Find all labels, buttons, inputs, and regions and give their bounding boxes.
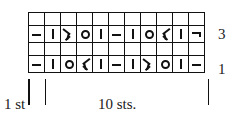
chart-cell [125, 56, 141, 73]
purl-stitch-icon [29, 26, 44, 42]
chart-cell [29, 43, 45, 56]
chart-cell [61, 26, 77, 43]
chart-cell [61, 56, 77, 73]
knit-stitch-icon [173, 26, 188, 42]
chart-cell [141, 13, 157, 26]
label-first-stitch: 1 st [4, 96, 25, 112]
row-number-lower: 1 [218, 62, 226, 77]
chart-cell [157, 26, 173, 43]
chart-cell [93, 26, 109, 43]
tick-mark-left [28, 79, 30, 105]
left-leaning-decrease-icon [141, 56, 156, 72]
chart-cell [45, 56, 61, 73]
chart-cell [141, 56, 157, 73]
chart-cell [125, 43, 141, 56]
chart-row-3 [29, 26, 205, 43]
chart-cell [77, 56, 93, 73]
knit-stitch-icon [125, 26, 140, 42]
chart-cell [157, 43, 173, 56]
knit-stitch-icon [93, 26, 108, 42]
stitch-chart-grid [28, 12, 205, 73]
chart-cell [141, 43, 157, 56]
purl-stitch-icon [189, 56, 204, 72]
knit-stitch-icon [45, 56, 60, 72]
chart-cell [61, 43, 77, 56]
chart-cell [189, 56, 205, 73]
chart-cell [29, 13, 45, 26]
label-repeat-stitches: 10 sts. [98, 96, 136, 112]
chart-cell [29, 26, 45, 43]
chart-cell [45, 43, 61, 56]
knit-stitch-icon [45, 26, 60, 42]
chart-cell [109, 13, 125, 26]
purl-stitch-icon [109, 26, 124, 42]
chart-cell [109, 43, 125, 56]
chart-cell [173, 26, 189, 43]
chart-cell [109, 56, 125, 73]
left-leaning-decrease-icon [61, 26, 76, 42]
stitch-chart-figure: 3 1 1 st 10 sts. [0, 0, 248, 122]
chart-cell [125, 26, 141, 43]
chart-cell [125, 13, 141, 26]
knit-stitch-icon [173, 56, 188, 72]
chart-cell [173, 13, 189, 26]
chart-cell [77, 13, 93, 26]
chart-cell [77, 26, 93, 43]
yarn-over-icon [61, 56, 76, 72]
chart-row-1 [29, 56, 205, 73]
yarn-over-icon [157, 56, 172, 72]
chart-cell [141, 26, 157, 43]
yarn-over-icon [141, 26, 156, 42]
chart-row-blank-top [29, 13, 205, 26]
chart-cell [61, 13, 77, 26]
purl-stitch-end-icon [189, 26, 204, 42]
chart-cell [157, 13, 173, 26]
right-leaning-decrease-icon [157, 26, 172, 42]
right-leaning-decrease-icon [77, 56, 92, 72]
knit-stitch-icon [93, 56, 108, 72]
chart-cell [109, 26, 125, 43]
chart-cell [45, 26, 61, 43]
row-number-upper: 3 [218, 27, 226, 42]
purl-stitch-icon [109, 56, 124, 72]
chart-cell [29, 56, 45, 73]
tick-mark-middle [45, 79, 47, 105]
chart-row-blank-mid [29, 43, 205, 56]
chart-cell [77, 43, 93, 56]
chart-cell [173, 43, 189, 56]
chart-cell [93, 56, 109, 73]
chart-cell [45, 13, 61, 26]
chart-cell [93, 13, 109, 26]
chart-cell [189, 43, 205, 56]
purl-stitch-icon [29, 56, 44, 72]
tick-mark-right [208, 79, 210, 105]
yarn-over-icon [77, 26, 92, 42]
chart-cell [93, 43, 109, 56]
chart-cell [157, 56, 173, 73]
knit-stitch-icon [125, 56, 140, 72]
chart-cell [189, 13, 205, 26]
chart-cell [173, 56, 189, 73]
chart-cell [189, 26, 205, 43]
